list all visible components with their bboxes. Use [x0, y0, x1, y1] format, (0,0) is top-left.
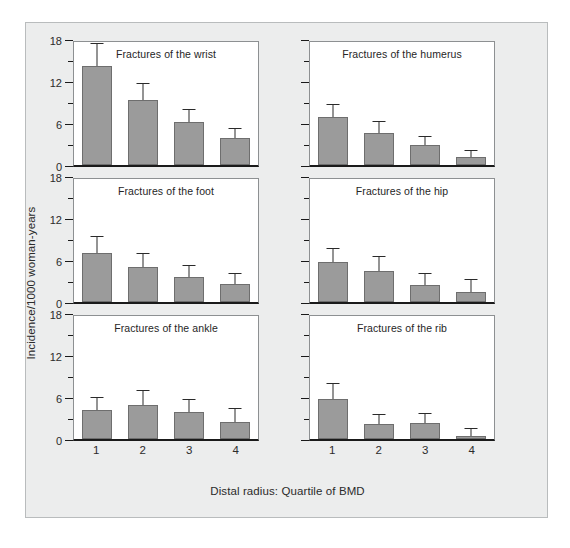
plot-area: Fractures of the humerus: [309, 41, 495, 167]
y-axis-ticks: [301, 178, 309, 304]
bar-slot: [74, 316, 120, 439]
bar-slot: [166, 316, 212, 439]
bar: [220, 138, 250, 165]
error-bar-line: [189, 110, 190, 122]
y-tick-major: [65, 303, 73, 304]
error-bar-line: [235, 129, 236, 138]
bar-group: [74, 316, 258, 439]
bar: [128, 100, 158, 165]
bar-slot: [212, 316, 258, 439]
y-tick-major: [301, 356, 309, 357]
bar-slot: [310, 316, 356, 439]
bar: [318, 117, 348, 165]
y-axis-ticks: [65, 315, 73, 441]
error-bar-line: [425, 274, 426, 285]
bar-slot: [166, 42, 212, 165]
y-tick-label: 18: [38, 310, 62, 321]
error-bar-line: [143, 254, 144, 267]
error-bar-line: [379, 122, 380, 133]
error-bar-line: [235, 274, 236, 284]
plot-area: Fractures of the ankle: [73, 315, 259, 441]
y-tick-major: [65, 82, 73, 83]
error-bar-cap: [419, 136, 432, 137]
error-bar-cap: [373, 414, 386, 415]
error-bar-cap: [91, 397, 104, 398]
y-tick-label: 6: [38, 257, 62, 268]
error-bar-line: [425, 414, 426, 423]
error-bar-cap: [465, 428, 478, 429]
plot-area: Fractures of the hip: [309, 178, 495, 304]
y-tick-major: [301, 261, 309, 262]
bar-slot: [402, 179, 448, 302]
bar: [220, 284, 250, 302]
x-tick-label: 2: [356, 444, 403, 456]
bar: [174, 277, 204, 302]
bar-group: [310, 316, 494, 439]
y-tick-label: 6: [38, 394, 62, 405]
bar-group: [74, 42, 258, 165]
figure-frame: Incidence/1000 woman-years 061218Fractur…: [25, 22, 548, 518]
bar-slot: [120, 316, 166, 439]
error-bar-line: [379, 257, 380, 270]
bar: [456, 157, 486, 165]
bar-slot: [356, 42, 402, 165]
bar: [174, 122, 204, 165]
bar: [82, 410, 112, 439]
y-axis-ticks: [65, 178, 73, 304]
y-tick-major: [65, 440, 73, 441]
error-bar-cap: [373, 256, 386, 257]
error-bar-cap: [327, 104, 340, 105]
bar: [128, 405, 158, 439]
error-bar-line: [333, 249, 334, 262]
y-tick-major: [301, 40, 309, 41]
y-tick-major: [301, 398, 309, 399]
y-axis-tick-labels: 061218: [36, 178, 62, 304]
y-tick-label: 12: [38, 78, 62, 89]
error-bar-cap: [327, 383, 340, 384]
error-bar-cap: [229, 408, 242, 409]
bar: [364, 133, 394, 165]
error-bar-cap: [137, 253, 150, 254]
y-tick-major: [301, 219, 309, 220]
error-bar-cap: [373, 121, 386, 122]
error-bar-line: [235, 409, 236, 422]
error-bar-line: [143, 391, 144, 404]
x-axis-title: Distal radius: Quartile of BMD: [26, 485, 549, 497]
error-bar-cap: [91, 236, 104, 237]
y-tick-label: 0: [38, 436, 62, 447]
bar: [318, 399, 348, 439]
error-bar-cap: [419, 273, 432, 274]
x-axis-title-text: Distal radius: Quartile of BMD: [210, 485, 364, 497]
panel-fractures-of-the-hip: Fractures of the hip: [291, 178, 531, 326]
panel-fractures-of-the-foot: 061218Fractures of the foot: [36, 178, 276, 326]
error-bar-cap: [465, 279, 478, 280]
bar: [364, 271, 394, 303]
bar-slot: [74, 42, 120, 165]
y-axis-ticks: [65, 41, 73, 167]
x-tick-label: 2: [120, 444, 167, 456]
x-axis-tick-labels: 1234: [73, 444, 259, 462]
error-bar-line: [471, 280, 472, 292]
bar-slot: [120, 42, 166, 165]
plot-area: Fractures of the rib: [309, 315, 495, 441]
bar-slot: [448, 42, 494, 165]
error-bar-line: [471, 151, 472, 157]
y-tick-major: [301, 314, 309, 315]
bar: [82, 66, 112, 165]
error-bar-line: [425, 137, 426, 145]
bar-slot: [74, 179, 120, 302]
bar: [318, 262, 348, 302]
error-bar-cap: [137, 83, 150, 84]
y-tick-label: 12: [38, 215, 62, 226]
error-bar-cap: [137, 390, 150, 391]
y-tick-major: [301, 177, 309, 178]
y-tick-major: [301, 440, 309, 441]
y-tick-major: [65, 219, 73, 220]
error-bar-cap: [327, 248, 340, 249]
bar: [456, 436, 486, 439]
y-axis-ticks: [301, 41, 309, 167]
x-tick-label: 3: [166, 444, 213, 456]
y-tick-major: [65, 356, 73, 357]
y-tick-major: [301, 124, 309, 125]
error-bar-cap: [419, 413, 432, 414]
